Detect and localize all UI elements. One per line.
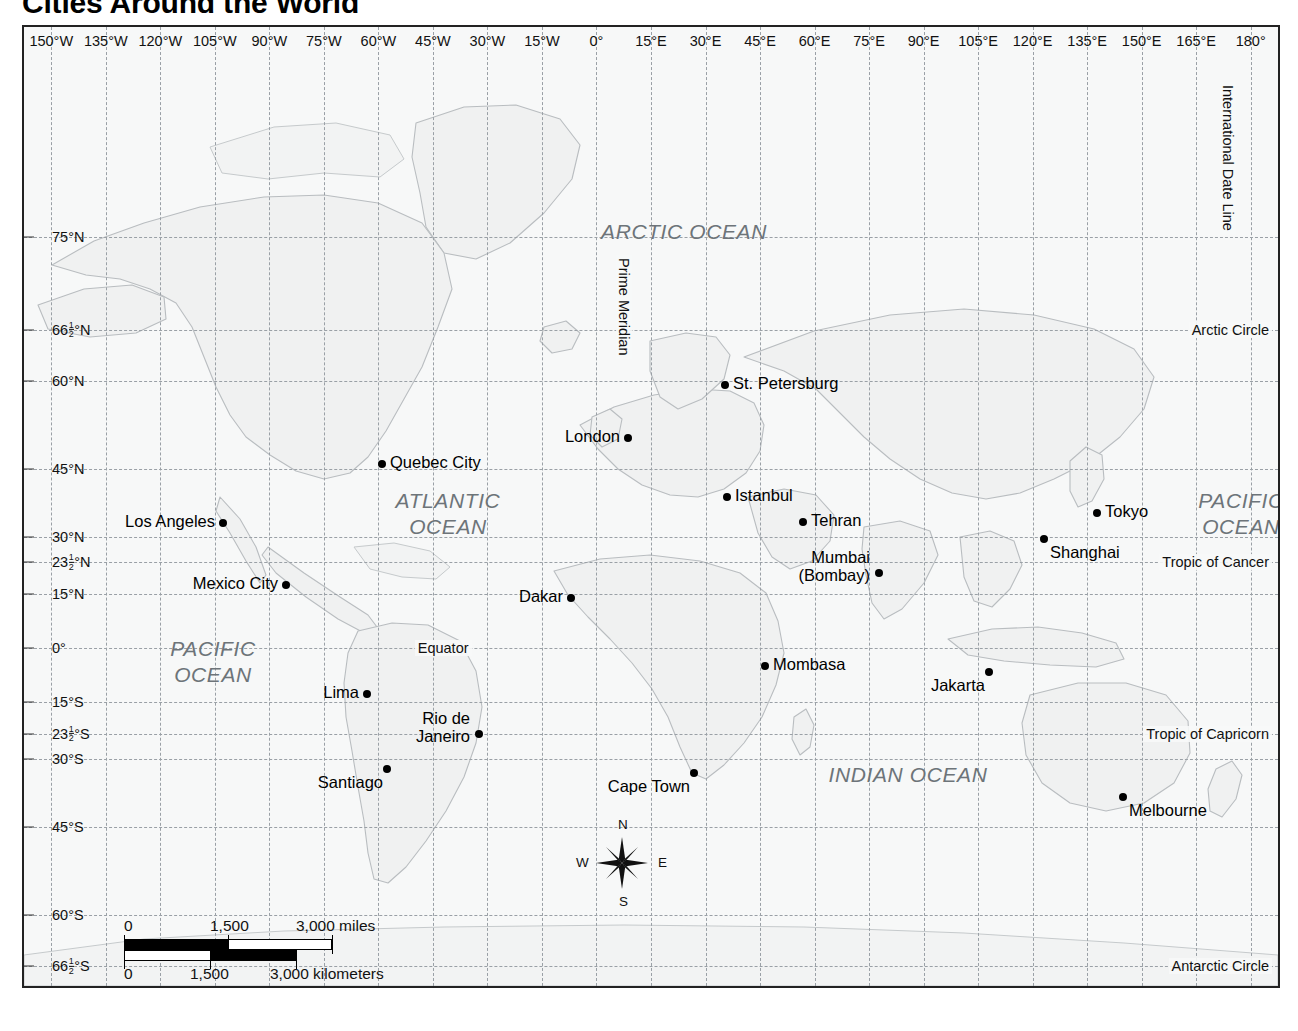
city-dot-icon [690, 769, 698, 777]
latitude-label-75°N: 75°N [52, 229, 84, 245]
compass-rose: N S E W [576, 817, 668, 909]
city-dot-icon [875, 569, 883, 577]
city-dot-icon [799, 518, 807, 526]
projection-label: Mercator projection [124, 987, 257, 988]
tropic-of-capricorn-label: Tropic of Capricorn [1143, 726, 1272, 742]
latitude-tick-45°N [24, 469, 34, 470]
city-dot-icon [282, 581, 290, 589]
latitude-label-45°N: 45°N [52, 461, 84, 477]
scale-bar-bars [124, 939, 384, 965]
japan [1070, 447, 1104, 507]
latitude-tick-23½°S [24, 733, 34, 734]
latitude-label-60°N: 60°N [52, 373, 84, 389]
latitude-label-23½°S: 2312°S [52, 724, 90, 742]
greenland [412, 105, 580, 259]
scale-bar-miles-labels: 0 1,500 3,000 miles [124, 917, 384, 937]
latitude-tick-66½°N [24, 329, 34, 330]
city-label: Santiago [318, 773, 383, 791]
antarctic-circle-label: Antarctic Circle [1169, 958, 1273, 974]
latitude-label-15°N: 15°N [52, 586, 84, 602]
longitude-label-135°W: 135°W [84, 33, 128, 49]
latitude-label-30°N: 30°N [52, 529, 84, 545]
caribbean [354, 543, 450, 579]
scale-miles-0: 0 [124, 917, 133, 935]
longitude-label-45°W: 45°W [415, 33, 451, 49]
longitude-label-150°W: 150°W [29, 33, 73, 49]
city-label: Shanghai [1050, 543, 1120, 561]
longitude-label-180°: 180° [1236, 33, 1266, 49]
southeast-asia [960, 531, 1022, 607]
latitude-tick-23½°N [24, 562, 34, 563]
ocean-label-indian-ocean-4: INDIAN OCEAN [829, 762, 988, 788]
longitude-label-75°W: 75°W [306, 33, 342, 49]
longitude-label-135°E: 135°E [1067, 33, 1107, 49]
north-america [52, 195, 452, 479]
longitude-label-120°E: 120°E [1013, 33, 1053, 49]
latitude-tick-0° [24, 648, 34, 649]
city-dot-icon [723, 493, 731, 501]
longitude-label-165°E: 165°E [1176, 33, 1216, 49]
city-label: Quebec City [390, 453, 481, 471]
scale-km-3000: 3,000 kilometers [270, 965, 384, 983]
scale-bar: 0 1,500 3,000 miles [124, 917, 384, 985]
scale-km-seg-1 [125, 951, 210, 960]
city-dot-icon [383, 765, 391, 773]
city-label: St. Petersburg [733, 374, 838, 392]
longitude-label-0°: 0° [590, 33, 604, 49]
equator-label: Equator [415, 640, 472, 656]
india [862, 521, 938, 619]
scale-km-1500: 1,500 [190, 965, 229, 983]
scale-miles-1500: 1,500 [210, 917, 249, 935]
iceland [540, 321, 580, 353]
latitude-label-66½°N: 6612°N [52, 321, 90, 339]
longitude-label-150°E: 150°E [1122, 33, 1162, 49]
latitude-tick-45°S [24, 826, 34, 827]
international-date-line-label: International Date Line [1220, 82, 1236, 234]
longitude-label-120°W: 120°W [138, 33, 182, 49]
ocean-label-arctic-ocean-0: ARCTIC OCEAN [601, 219, 767, 245]
longitude-label-90°E: 90°E [908, 33, 940, 49]
arctic-circle-label: Arctic Circle [1189, 322, 1272, 338]
longitude-label-45°E: 45°E [744, 33, 776, 49]
baja-california [216, 497, 266, 583]
ocean-label-pacific-ocean-3: PACIFICOCEAN [170, 636, 255, 689]
latitude-label-45°S: 45°S [52, 819, 84, 835]
ocean-label-atlantic-ocean-1: ATLANTICOCEAN [396, 488, 501, 541]
latitude-label-60°S: 60°S [52, 907, 84, 923]
city-label: Mumbai(Bombay) [798, 548, 870, 585]
compass-east-label: E [658, 855, 667, 870]
scale-tick-miles-mid [228, 935, 229, 954]
longitude-label-90°W: 90°W [252, 33, 288, 49]
compass-west-label: W [576, 855, 589, 870]
south-america [344, 623, 482, 883]
city-label: Mombasa [773, 655, 845, 673]
city-label: Cape Town [608, 777, 690, 795]
city-dot-icon [721, 381, 729, 389]
scale-tick-left [124, 935, 125, 969]
latitude-tick-30°S [24, 759, 34, 760]
longitude-label-105°W: 105°W [193, 33, 237, 49]
latitude-label-0°: 0° [52, 640, 66, 656]
city-dot-icon [1119, 793, 1127, 801]
city-dot-icon [985, 668, 993, 676]
city-label: Tokyo [1105, 502, 1148, 520]
scale-tick-miles-end [332, 935, 333, 954]
world-map-page: Cities Around the World [0, 0, 1298, 1031]
latitude-label-23½°N: 2312°N [52, 553, 90, 571]
central-america [262, 547, 380, 635]
new-zealand [1208, 761, 1242, 817]
city-dot-icon [219, 519, 227, 527]
longitude-label-30°E: 30°E [690, 33, 722, 49]
latitude-tick-60°S [24, 914, 34, 915]
scale-km-0: 0 [124, 965, 133, 983]
longitude-label-60°E: 60°E [799, 33, 831, 49]
city-label: Los Angeles [125, 512, 215, 530]
city-dot-icon [761, 662, 769, 670]
scale-miles-seg-1 [125, 940, 228, 949]
indonesia [948, 627, 1124, 667]
latitude-tick-15°N [24, 594, 34, 595]
city-label: Mexico City [193, 574, 278, 592]
latitude-tick-66½°S [24, 966, 34, 967]
longitude-label-15°E: 15°E [635, 33, 667, 49]
city-label: Melbourne [1129, 801, 1207, 819]
